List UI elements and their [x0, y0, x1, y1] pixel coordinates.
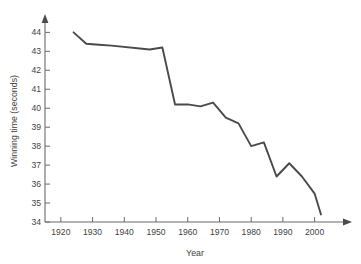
x-axis-arrowhead — [343, 219, 352, 226]
x-tick-label: 1970 — [210, 227, 229, 237]
x-axis-ticks: 192019301940195019601970198019902000 — [51, 217, 324, 237]
y-tick-label: 41 — [31, 84, 41, 94]
line-chart: 3435363738394041424344 19201930194019501… — [0, 0, 361, 264]
x-axis-title: Year — [186, 248, 204, 258]
y-tick-label: 37 — [31, 160, 41, 170]
x-tick-label: 1930 — [83, 227, 102, 237]
y-tick-label: 44 — [31, 27, 41, 37]
x-tick-label: 1980 — [242, 227, 261, 237]
y-tick-label: 42 — [31, 65, 41, 75]
x-tick-label: 1940 — [115, 227, 134, 237]
axes — [42, 14, 352, 225]
y-tick-label: 43 — [31, 46, 41, 56]
y-tick-label: 36 — [31, 179, 41, 189]
y-axis-arrowhead — [42, 14, 49, 23]
chart-container: 3435363738394041424344 19201930194019501… — [0, 0, 361, 264]
data-series-group — [74, 32, 321, 214]
y-tick-label: 39 — [31, 122, 41, 132]
y-tick-label: 38 — [31, 141, 41, 151]
data-line — [74, 32, 321, 214]
x-tick-label: 1990 — [273, 227, 292, 237]
x-tick-label: 1920 — [51, 227, 70, 237]
y-tick-label: 34 — [31, 217, 41, 227]
x-tick-label: 1950 — [146, 227, 165, 237]
x-tick-label: 1960 — [178, 227, 197, 237]
y-axis-title: Winning time (seconds) — [9, 75, 19, 167]
y-tick-label: 35 — [31, 198, 41, 208]
y-axis-ticks: 3435363738394041424344 — [31, 27, 50, 227]
x-tick-label: 2000 — [305, 227, 324, 237]
y-tick-label: 40 — [31, 103, 41, 113]
